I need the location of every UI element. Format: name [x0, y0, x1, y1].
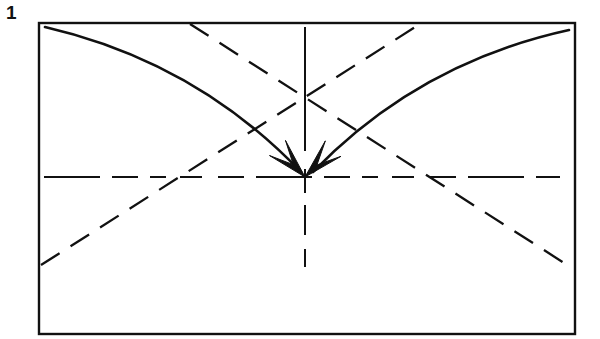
- paper-sheet-outline: [39, 23, 575, 334]
- fold-diagram: [0, 0, 600, 339]
- figure-root: 1: [0, 0, 600, 339]
- fold-arrow-right: [313, 30, 569, 172]
- fold-arrow-right-head: [305, 141, 341, 177]
- fold-arrow-left: [45, 27, 301, 172]
- diagonal-crease-falling: [190, 24, 572, 268]
- diagonal-crease-rising: [41, 24, 420, 265]
